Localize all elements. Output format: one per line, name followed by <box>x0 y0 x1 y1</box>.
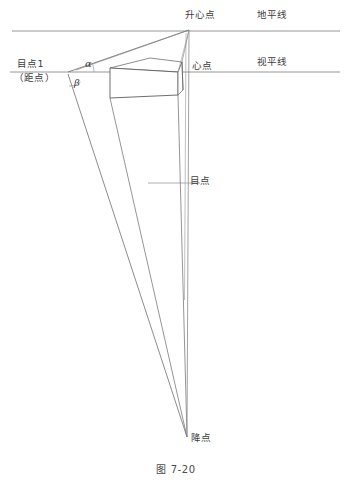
box-front-face <box>110 68 178 98</box>
angle-alpha-arc <box>93 65 94 73</box>
label-eye-point: 目点 <box>190 175 210 186</box>
ray-box-left-to-descending-point <box>110 98 187 437</box>
label-angle-alpha: α <box>85 58 92 69</box>
label-center-point: 心点 <box>192 60 212 71</box>
figure-root: 升心点 地平线 心点 视平线 目点1 （距点） 目点 降点 α β 图 7-20 <box>0 0 352 487</box>
center-vertical-axis <box>187 30 189 437</box>
center-vertical-axis-secondary <box>185 33 187 300</box>
box-corner-to-apex-secondary <box>178 30 189 72</box>
label-rising-center-point: 升心点 <box>185 9 216 20</box>
label-eye-level-line: 视平线 <box>257 56 288 67</box>
label-ground-line: 地平线 <box>257 9 288 20</box>
label-target-point-1: 目点1 <box>17 58 44 69</box>
label-angle-beta: β <box>74 77 80 88</box>
label-descending-point: 降点 <box>191 432 211 443</box>
ray-target-to-descending-point <box>68 74 187 437</box>
figure-caption: 图 7-20 <box>0 461 352 476</box>
label-target-point-1-alt: （距点） <box>14 72 55 83</box>
